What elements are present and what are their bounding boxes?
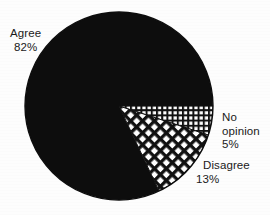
pie-chart-figure: Agree 82% No opinion 5% Disagree 13% (0, 0, 270, 215)
pie-label-disagree: Disagree 13% (196, 159, 250, 186)
pie-label-agree-percent: 82% (10, 41, 41, 55)
pie-label-agree-name: Agree (10, 27, 41, 39)
pie-label-no-opinion-line2: opinion (222, 125, 260, 139)
pie-label-no-opinion-line1: No (222, 111, 237, 123)
pie-label-no-opinion: No opinion 5% (222, 111, 260, 152)
pie-label-no-opinion-percent: 5% (222, 138, 260, 152)
pie-label-agree: Agree 82% (10, 27, 41, 54)
pie-label-disagree-percent: 13% (196, 173, 250, 187)
pie-label-disagree-name: Disagree (196, 159, 250, 173)
